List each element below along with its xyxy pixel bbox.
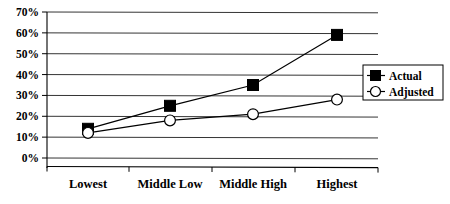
legend-label-adjusted: Adjusted bbox=[389, 86, 434, 99]
line-chart: 70% 60% 50% 40% 30% 20% 10% 0% Lowest Mi… bbox=[0, 0, 450, 204]
data-point-adjusted-lowest bbox=[83, 127, 94, 138]
y-tick-label-70: 70% bbox=[16, 6, 39, 18]
legend-label-actual: Actual bbox=[389, 70, 422, 82]
data-point-adjusted-middle-high bbox=[248, 109, 259, 120]
x-axis-tick-labels: Lowest Middle Low Middle High Highest bbox=[69, 177, 358, 191]
y-tick-label-20: 20% bbox=[16, 110, 39, 122]
gridline-50 bbox=[47, 54, 378, 55]
x-tick-label-highest: Highest bbox=[317, 177, 359, 191]
chart-canvas: 70% 60% 50% 40% 30% 20% 10% 0% Lowest Mi… bbox=[0, 0, 450, 204]
chart-legend: Actual Adjusted bbox=[363, 65, 443, 100]
legend-entry-actual: Actual bbox=[367, 70, 422, 82]
data-point-adjusted-middle-low bbox=[165, 115, 176, 126]
y-axis-ticks bbox=[42, 12, 47, 158]
y-tick-label-0: 0% bbox=[22, 152, 39, 164]
x-tick-label-lowest: Lowest bbox=[69, 177, 108, 191]
x-tick-label-middle-high: Middle High bbox=[219, 177, 287, 191]
y-tick-label-50: 50% bbox=[16, 48, 39, 60]
gridlines bbox=[47, 12, 378, 159]
series-actual-line bbox=[88, 35, 337, 129]
gridline-0 bbox=[47, 158, 378, 159]
filled-square-marker-icon bbox=[371, 71, 381, 81]
y-tick-label-40: 40% bbox=[16, 69, 39, 81]
series-actual bbox=[83, 29, 343, 134]
legend-entry-adjusted: Adjusted bbox=[367, 86, 434, 99]
y-tick-label-60: 60% bbox=[16, 27, 39, 39]
gridline-70 bbox=[47, 12, 378, 13]
y-tick-label-30: 30% bbox=[16, 89, 39, 101]
gridline-10 bbox=[47, 137, 378, 138]
data-point-actual-middle-low bbox=[165, 100, 176, 111]
data-point-adjusted-highest bbox=[332, 94, 343, 105]
y-axis-tick-labels: 70% 60% 50% 40% 30% 20% 10% 0% bbox=[16, 6, 39, 164]
x-tick-label-middle-low: Middle Low bbox=[138, 177, 203, 191]
gridline-40 bbox=[47, 75, 378, 76]
data-point-actual-highest bbox=[332, 29, 343, 40]
data-point-actual-middle-high bbox=[248, 80, 259, 91]
y-tick-label-10: 10% bbox=[16, 131, 39, 143]
gridline-60 bbox=[47, 33, 378, 34]
open-circle-marker-icon bbox=[371, 87, 381, 97]
